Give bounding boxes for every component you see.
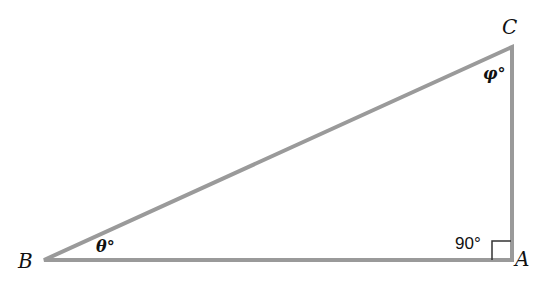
angle-label-phi: φ° — [483, 64, 505, 83]
triangle-abc — [44, 47, 512, 260]
right-angle-marker — [492, 241, 511, 260]
vertex-label-a: A — [513, 247, 529, 271]
vertex-label-b: B — [17, 249, 33, 273]
angle-label-right: 90° — [455, 234, 481, 253]
angle-label-theta: θ° — [96, 237, 115, 256]
triangle-diagram: C B A φ° θ° 90° — [0, 0, 559, 282]
vertex-label-c: C — [502, 15, 517, 39]
